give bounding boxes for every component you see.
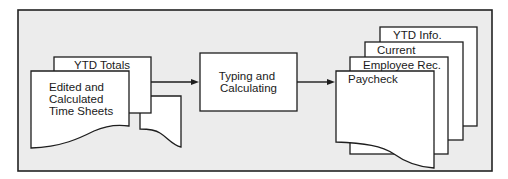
process-line-1: Typing and <box>219 70 275 82</box>
payroll-flow-diagram: YTD Totals Edited and Calculated Time Sh… <box>0 0 508 179</box>
time-sheets-line-3: Time Sheets <box>49 105 113 117</box>
process-label: Typing and Calculating <box>219 70 278 94</box>
employee-rec-label: Employee Rec. <box>363 59 441 71</box>
time-sheets-label: Edited and Calculated Time Sheets <box>49 81 113 117</box>
process-line-2: Calculating <box>220 82 277 94</box>
paycheck-label: Paycheck <box>348 73 398 85</box>
current-label: Current <box>377 44 416 56</box>
time-sheets-line-1: Edited and <box>49 81 104 93</box>
time-sheets-line-2: Calculated <box>49 93 103 105</box>
ytd-info-label: YTD Info. <box>393 29 442 41</box>
ytd-totals-label: YTD Totals <box>74 59 130 71</box>
